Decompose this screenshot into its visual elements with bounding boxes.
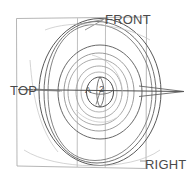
label-front: FRONT bbox=[105, 12, 151, 27]
label-right: RIGHT bbox=[145, 157, 186, 172]
label-center-number: 2 bbox=[99, 84, 104, 94]
sketch-canvas: FRONT TOP RIGHT A 2 bbox=[0, 0, 191, 186]
label-center-letter: A bbox=[85, 85, 91, 95]
label-top: TOP bbox=[10, 83, 37, 98]
